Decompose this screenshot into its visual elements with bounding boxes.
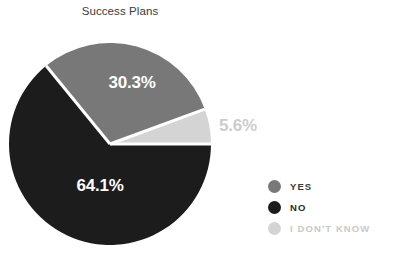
legend-item-no[interactable]: NO	[268, 197, 396, 218]
pie-chart-figure: Success Plans 30.3% 64.1% 5.6% YES NO	[0, 0, 399, 257]
legend-item-yes[interactable]: YES	[268, 176, 396, 197]
legend-swatch-yes-icon	[268, 180, 281, 193]
slice-label-yes: 30.3%	[108, 73, 155, 92]
legend-label-no: NO	[290, 202, 306, 213]
slice-label-no: 64.1%	[76, 176, 123, 195]
legend-label-i-dont-know: I DON'T KNOW	[290, 223, 370, 234]
legend-label-yes: YES	[290, 181, 312, 192]
legend-swatch-i-dont-know-icon	[268, 222, 281, 235]
slice-label-i-dont-know: 5.6%	[219, 116, 257, 135]
legend-item-i-dont-know[interactable]: I DON'T KNOW	[268, 218, 396, 239]
legend-swatch-no-icon	[268, 201, 281, 214]
chart-legend: YES NO I DON'T KNOW	[268, 176, 396, 239]
